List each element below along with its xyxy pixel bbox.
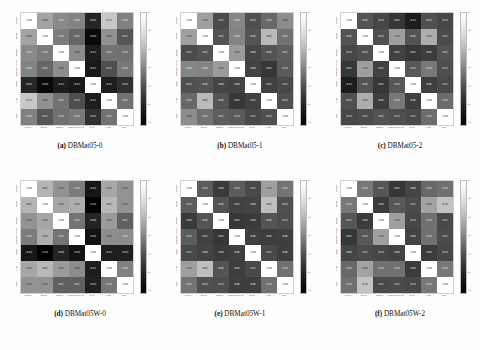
heatmap-cell: 0.10 <box>405 277 421 293</box>
colorbar-tick: 0.0 <box>148 272 151 274</box>
x-tick-label: appetizer2 <box>212 126 228 136</box>
y-axis-tick-labels: consensusappetizerappetizer2amoebocyte o… <box>329 180 340 292</box>
heatmap-cell: 0.70 <box>357 277 373 293</box>
heatmap-cell: -0.02 <box>117 77 133 93</box>
heatmap-cell: 0.40 <box>229 13 245 29</box>
x-axis-tick-labels: consensusappetizerappetizer2amoebocyte o… <box>20 126 132 136</box>
heatmap-cell: 0.20 <box>181 197 197 213</box>
heatmap-cell: 1.00 <box>197 29 213 45</box>
heatmap-cell: 1.00 <box>37 197 53 213</box>
heatmap-cell: 0.51 <box>229 45 245 61</box>
heatmap-cell: 0.14 <box>261 109 277 125</box>
heatmap-cell: 0.60 <box>69 197 85 213</box>
heatmap-cell: 0.15 <box>373 109 389 125</box>
heatmap-cell: 0.02 <box>213 229 229 245</box>
heatmap-cell: 1.00 <box>261 261 277 277</box>
y-axis-tick-labels: consensusappetizerappetizer2amoebocyte o… <box>329 12 340 124</box>
heatmap-cell: 0.36 <box>37 45 53 61</box>
heatmap-cell: 0.30 <box>277 261 293 277</box>
heatmap-cell: 0.34 <box>341 197 357 213</box>
heatmap-cell: 0.32 <box>69 213 85 229</box>
colorbar-tick-labels: 1.00.80.60.40.20.0-0.2 <box>308 12 311 124</box>
x-tick-label: amoebocyte of cell fraternity <box>228 126 244 136</box>
heatmap-cell: 1.00 <box>421 261 437 277</box>
heatmap-axes-a: consensusappetizerappetizer2amoebocyte o… <box>9 12 134 136</box>
heatmap-cell: 0.16 <box>213 261 229 277</box>
heatmap-cell: 1.00 <box>389 229 405 245</box>
x-tick-label: consensus <box>20 126 36 136</box>
x-tick-label: digitize <box>244 294 260 304</box>
caption-title: DBMat05-0 <box>68 142 103 150</box>
x-tick-label: appetizer2 <box>372 294 388 304</box>
heatmap-cell: -0.11 <box>341 77 357 93</box>
x-tick-label: L-1 lobe <box>420 126 436 136</box>
heatmap-cell: 0.34 <box>69 109 85 125</box>
y-tick-label: appetizer <box>9 28 20 44</box>
heatmap-cell: 0.28 <box>421 109 437 125</box>
heatmap-cell: 0.13 <box>389 109 405 125</box>
heatmap-cell: 0.10 <box>405 213 421 229</box>
heatmap-cell: 0.57 <box>53 197 69 213</box>
heatmap-cell: 0.26 <box>181 93 197 109</box>
heatmap-cell: 0.04 <box>421 245 437 261</box>
heatmap-cell: 0.06 <box>245 229 261 245</box>
heatmap-cell: 0.07 <box>197 229 213 245</box>
x-tick-label: appetizer2 <box>372 126 388 136</box>
colorbar-tick: 1.0 <box>148 12 151 14</box>
heatmap-panel-f: consensusappetizerappetizer2amoebocyte o… <box>320 176 480 344</box>
heatmap-matrix-b: 1.000.530.120.400.140.260.440.531.000.15… <box>180 12 294 126</box>
y-tick-label: digitize <box>329 244 340 260</box>
heatmap-cell: 0.19 <box>229 109 245 125</box>
heatmap-cell: 0.34 <box>389 93 405 109</box>
y-tick-label: appetizer <box>329 196 340 212</box>
heatmap-cell: 0.31 <box>277 29 293 45</box>
heatmap-cell: 0.34 <box>117 61 133 77</box>
heatmap-cell: 0.04 <box>373 197 389 213</box>
colorbar-tick: -0.2 <box>148 290 151 292</box>
x-tick-label: consensus <box>340 126 356 136</box>
heatmap-cell: 0.55 <box>357 261 373 277</box>
heatmap-cell: 0.17 <box>117 29 133 45</box>
heatmap-cell: 0.17 <box>373 181 389 197</box>
x-tick-label: amoebocyte of cell fraternity <box>228 294 244 304</box>
heatmap-cell: 0.18 <box>389 197 405 213</box>
panel-caption-d: (d) DBMat05W-0 <box>54 310 106 318</box>
heatmap-cell: 0.60 <box>37 229 53 245</box>
heatmap-cell: 0.36 <box>53 29 69 45</box>
heatmap-cell: 0.14 <box>277 93 293 109</box>
heatmap-cell: 1.00 <box>245 245 261 261</box>
y-tick-label: appetizer <box>169 28 180 44</box>
colorbar-tick: 0.2 <box>148 254 151 256</box>
heatmap-cell: 0.11 <box>245 109 261 125</box>
heatmap-cell: 0.25 <box>37 61 53 77</box>
caption-letter: (c) <box>378 142 388 150</box>
heatmap-cell: -0.07 <box>21 77 37 93</box>
colorbar-c: 1.00.80.60.40.20.0-0.2 <box>460 12 471 126</box>
heatmap-matrix-f: 1.000.340.170.020.090.260.300.341.000.04… <box>340 180 454 294</box>
heatmap-cell: 0.06 <box>245 277 261 293</box>
colorbar-tick: 0.8 <box>308 198 311 200</box>
heatmap-column-e: 1.000.200.040.200.110.530.320.201.000.16… <box>180 180 294 304</box>
panel-caption-a: (a) DBMat05-0 <box>58 142 103 150</box>
heatmap-cell: 0.12 <box>181 45 197 61</box>
heatmap-cell: 0.02 <box>229 93 245 109</box>
figure-body-b: consensusappetizerappetizer2amoebocyte o… <box>164 8 316 140</box>
heatmap-cell: 0.10 <box>341 109 357 125</box>
x-tick-label: appetizer2 <box>52 294 68 304</box>
heatmap-cell: 0.04 <box>181 213 197 229</box>
colorbar-tick: 0.4 <box>148 235 151 237</box>
heatmap-cell: 1.00 <box>101 93 117 109</box>
colorbar-gradient <box>460 180 467 294</box>
heatmap-cell: 1.00 <box>229 229 245 245</box>
heatmap-cell: -0.11 <box>101 245 117 261</box>
colorbar-tick: 1.0 <box>308 12 311 14</box>
heatmap-axes-f: consensusappetizerappetizer2amoebocyte o… <box>329 180 454 304</box>
heatmap-cell: 0.04 <box>213 181 229 197</box>
x-tick-label: consensus <box>340 294 356 304</box>
heatmap-cell: 0.19 <box>277 61 293 77</box>
x-tick-label: regress <box>276 294 292 304</box>
heatmap-cell: 0.53 <box>197 13 213 29</box>
colorbar-tick: 0.6 <box>468 49 471 51</box>
colorbar-tick: 0.8 <box>468 198 471 200</box>
heatmap-panel-b: consensusappetizerappetizer2amoebocyte o… <box>160 8 320 176</box>
